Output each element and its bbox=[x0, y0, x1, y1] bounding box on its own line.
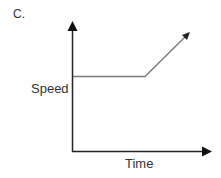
y-axis-arrow-icon bbox=[68, 21, 78, 31]
x-axis-arrow-icon bbox=[202, 147, 212, 157]
speed-time-graph bbox=[0, 0, 221, 178]
speed-line bbox=[73, 37, 185, 77]
